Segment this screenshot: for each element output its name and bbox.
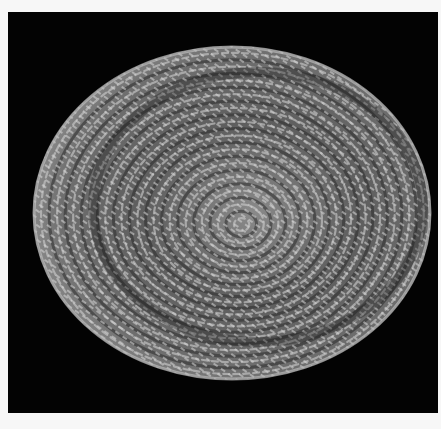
photo-background bbox=[8, 12, 438, 413]
basket-coil-pattern bbox=[8, 12, 438, 413]
woven-basket bbox=[8, 12, 438, 413]
